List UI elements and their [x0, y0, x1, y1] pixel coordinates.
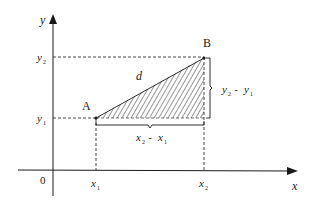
- svg-text:2: 2: [228, 91, 231, 97]
- x1-tick-label: x 1: [90, 177, 100, 191]
- y-axis-arrow-icon: [49, 14, 57, 24]
- svg-text:2: 2: [205, 185, 208, 191]
- vertical-brace: [206, 58, 212, 118]
- x2-tick-label: x 2: [198, 177, 208, 191]
- svg-text:-: -: [146, 132, 154, 143]
- distance-label: d: [136, 69, 143, 83]
- svg-text:1: 1: [43, 120, 46, 126]
- horizontal-difference-label: x 2 - x 1: [135, 131, 167, 145]
- point-b-label: B: [203, 36, 211, 50]
- y-axis-label: y: [39, 13, 46, 27]
- svg-text:2: 2: [43, 59, 46, 65]
- point-b-marker: [202, 56, 205, 59]
- svg-text:x: x: [198, 177, 204, 189]
- svg-text:x: x: [135, 131, 141, 143]
- distance-diagram: y x 0 A B d y 2 y 1 x 1 x 2 x 2 - x 1 y …: [0, 0, 320, 207]
- svg-text:y: y: [36, 51, 42, 63]
- svg-text:x: x: [157, 131, 163, 143]
- vertical-difference-label: y 2 - y 1: [221, 83, 253, 97]
- y1-tick-label: y 1: [36, 112, 46, 126]
- svg-text:1: 1: [97, 185, 100, 191]
- svg-text:1: 1: [164, 139, 167, 145]
- y2-tick-label: y 2: [36, 51, 46, 65]
- point-a-label: A: [82, 99, 91, 113]
- point-a-marker: [94, 116, 97, 119]
- svg-text:-: -: [232, 84, 240, 95]
- horizontal-brace: [96, 121, 204, 128]
- y-axis: [49, 14, 57, 196]
- origin-label: 0: [40, 174, 46, 186]
- svg-text:y: y: [243, 83, 249, 95]
- svg-text:y: y: [221, 83, 227, 95]
- x-axis: [18, 167, 298, 175]
- svg-text:y: y: [36, 112, 42, 124]
- svg-text:x: x: [90, 177, 96, 189]
- svg-text:1: 1: [250, 91, 253, 97]
- svg-text:2: 2: [142, 139, 145, 145]
- x-axis-label: x: [291, 179, 298, 193]
- x-axis-arrow-icon: [287, 167, 298, 175]
